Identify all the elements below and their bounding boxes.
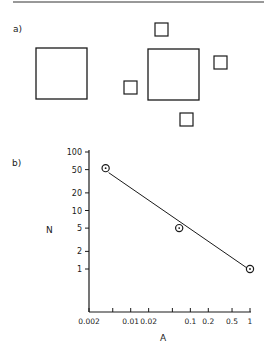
x-tick-label: 1 xyxy=(248,317,253,326)
small-square xyxy=(155,23,168,36)
x-tick-label: 0.2 xyxy=(202,317,214,326)
y-tick-label: 10 xyxy=(72,207,82,216)
large-square xyxy=(36,48,87,99)
figure: a) b) 100502010521 0.0020.010.020.10.20.… xyxy=(0,0,264,353)
x-tick-label: 0.02 xyxy=(140,317,157,326)
y-axis-ticks: 100502010521 xyxy=(67,148,89,274)
x-tick-label: 0.5 xyxy=(226,317,238,326)
x-axis-label: A xyxy=(160,333,167,343)
y-tick-label: 1 xyxy=(77,265,82,274)
panel-b-label: b) xyxy=(12,158,21,168)
fit-line xyxy=(109,173,247,268)
plot-series xyxy=(102,165,254,273)
x-tick-label: 0.1 xyxy=(184,317,196,326)
small-square xyxy=(180,113,193,126)
y-tick-label: 2 xyxy=(77,247,82,256)
y-tick-label: 50 xyxy=(72,166,82,175)
small-square xyxy=(214,56,227,69)
squares-diagram xyxy=(36,23,227,126)
data-point-marker xyxy=(176,225,183,232)
data-point-marker xyxy=(102,165,109,172)
x-tick-label: 0.01 xyxy=(122,317,139,326)
y-tick-label: 5 xyxy=(77,224,82,233)
y-axis-label: N xyxy=(46,225,53,235)
large-square xyxy=(148,49,199,100)
x-axis-ticks: 0.0020.010.020.10.20.51 xyxy=(78,308,252,326)
panel-b: b) 100502010521 0.0020.010.020.10.20.51 … xyxy=(12,148,254,343)
y-tick-label: 20 xyxy=(72,189,82,198)
x-tick-label: 0.002 xyxy=(78,317,100,326)
y-tick-label: 100 xyxy=(67,148,82,157)
panel-a-label: a) xyxy=(13,24,22,34)
panel-a: a) xyxy=(13,23,227,126)
small-square xyxy=(124,81,137,94)
data-point-marker xyxy=(246,265,253,272)
